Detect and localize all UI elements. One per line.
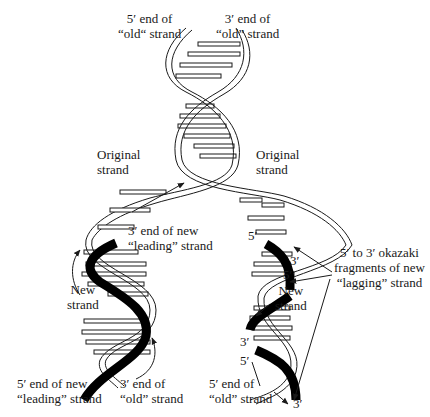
marker-3prime-bottom: 3′ xyxy=(293,396,302,412)
label-new-strand-left: New strand xyxy=(67,282,99,312)
base-pairs-top xyxy=(176,42,240,158)
label-original-strand-right: Original strand xyxy=(256,147,299,177)
marker-5prime-b: 5′ xyxy=(283,267,292,283)
marker-5prime-c: 5′ xyxy=(240,353,249,369)
label-leading-3prime-end: 3′ end of new “leading” strand xyxy=(128,223,213,253)
label-bottom-left-new-5prime: 5′ end of new “leading” strand xyxy=(17,376,102,406)
label-okazaki-fragments: 5′ to 3′ okazaki fragments of new “laggi… xyxy=(334,245,425,290)
marker-5prime-top: 5′ xyxy=(248,228,257,244)
marker-3prime-c: 3′ xyxy=(240,334,249,350)
label-bottom-left-old-3prime: 3′ end of “old” strand xyxy=(120,376,183,406)
label-top-right-old-3prime: 3′ end of “old” strand xyxy=(216,11,279,41)
label-top-left-old-5prime: 5′ end of “old“ strand xyxy=(118,11,181,41)
label-bottom-right-old-5prime: 5′ end of “old” strand xyxy=(209,376,272,406)
dna-replication-diagram xyxy=(0,0,430,417)
label-new-strand-right: New strand xyxy=(275,283,307,313)
label-original-strand-left: Original strand xyxy=(97,147,140,177)
